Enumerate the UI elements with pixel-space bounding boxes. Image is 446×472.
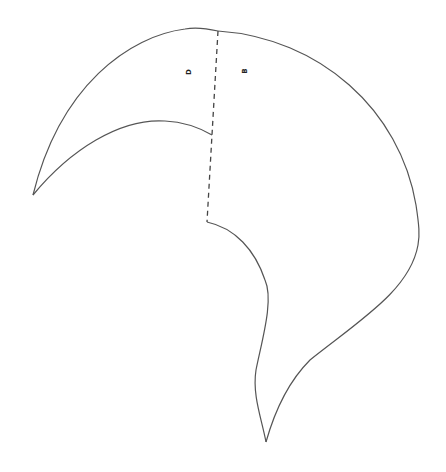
panel-d-inner-edge bbox=[33, 121, 212, 195]
seam-line bbox=[207, 31, 218, 222]
panel-b-outer-edge bbox=[218, 31, 419, 442]
label-d: D bbox=[185, 69, 193, 75]
pattern-svg: D B bbox=[0, 0, 446, 472]
panel-b-lower-edge bbox=[207, 222, 268, 442]
panel-d-outer-edge bbox=[33, 28, 218, 195]
label-b: B bbox=[241, 68, 249, 73]
